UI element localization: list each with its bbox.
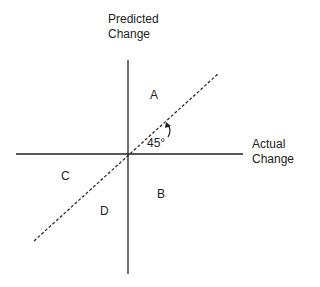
arrowhead-icon xyxy=(165,122,171,128)
x-axis-label-line1: Actual xyxy=(252,137,294,152)
45-degree-line xyxy=(34,73,219,241)
region-c-label: C xyxy=(61,169,70,184)
y-axis-label-line2: Change xyxy=(108,27,159,42)
y-axis-label-line1: Predicted xyxy=(108,12,159,27)
y-axis-label: Predicted Change xyxy=(108,12,159,42)
region-d-label: D xyxy=(100,204,109,219)
x-axis-label: Actual Change xyxy=(252,137,294,167)
angle-label: 45° xyxy=(147,136,165,151)
region-a-label: A xyxy=(150,88,158,103)
x-axis-label-line2: Change xyxy=(252,152,294,167)
region-b-label: B xyxy=(157,187,165,202)
